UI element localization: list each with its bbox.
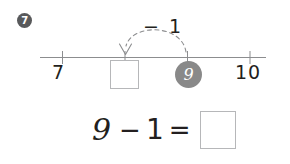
equation-minuend: 9	[92, 115, 111, 145]
equation-minus-operator: −	[119, 117, 141, 143]
equation-answer-box[interactable]	[200, 111, 236, 149]
worksheet-problem: 7 7 10 9 − 1 9 − 1 =	[0, 0, 290, 164]
equation-equals-sign: =	[169, 117, 191, 143]
number-line-answer-box[interactable]	[110, 60, 139, 89]
number-line-label-left: 7	[52, 61, 65, 83]
equation-row: 9 − 1 =	[92, 108, 236, 152]
equation-subtrahend: 1	[146, 116, 164, 144]
number-line-label-right: 10	[235, 61, 261, 83]
jump-amount-label: − 1	[143, 15, 183, 37]
number-line-start-value-chip: 9	[175, 61, 202, 88]
